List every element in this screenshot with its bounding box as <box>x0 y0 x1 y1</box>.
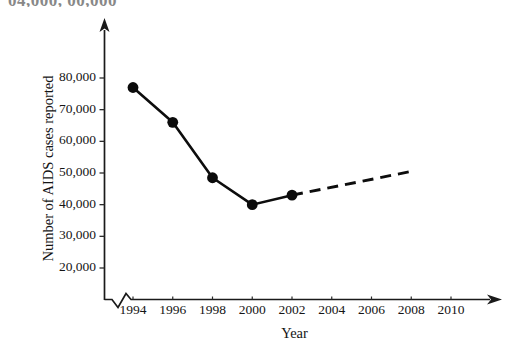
data-point-markers <box>128 82 298 210</box>
data-point-marker <box>287 190 298 201</box>
x-axis-line <box>105 294 503 308</box>
data-point-marker <box>207 172 218 183</box>
data-series-solid-line <box>133 88 292 205</box>
data-point-marker <box>128 82 139 93</box>
data-series-dashed-trend-line <box>292 171 411 195</box>
data-point-marker <box>247 199 258 210</box>
aids-cases-line-chart: 04,000, 00,000 Number of AIDS cases repo… <box>0 0 519 355</box>
y-axis-line <box>100 18 110 300</box>
plot-area <box>0 0 519 355</box>
data-point-marker <box>167 117 178 128</box>
